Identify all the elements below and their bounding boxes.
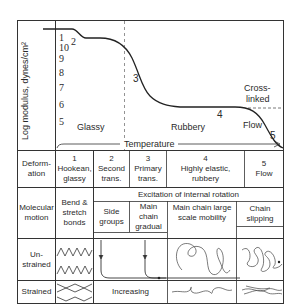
cell-text: Chain [250,204,271,214]
cell-text: glassy [63,174,86,184]
cell-number: 2 [109,154,113,164]
flow-label: Flow [243,120,262,130]
cell-number: 1 [72,154,76,164]
cell-text: Highly elastic, [181,164,230,174]
row-label-text: Deform- [22,159,51,169]
y-tick-5: 5 [59,117,64,127]
deformation-cell-5: 5 Flow [245,151,283,187]
region-4-label: 4 [217,110,223,120]
cell-text: trans. [101,174,121,184]
row-label-molecular-motion: Molecular motion [18,188,55,238]
increasing-label: Increasing [94,281,167,303]
y-tick-6: 6 [59,100,64,110]
cell-text: Primary [134,164,162,174]
y-tick-7: 7 [59,83,64,93]
region-2-label: 2 [71,37,76,47]
cell-text: Excitation of internal rotation [138,190,239,200]
cell-number: 3 [146,154,150,164]
row-label-unstrained: Un- strained [18,239,55,280]
cell-text: Main chain large [173,203,232,213]
row-label-text: motion [24,213,48,223]
glassy-label: Glassy [77,122,105,132]
cell-text: Bend & [61,198,87,208]
cell-text: Flow [256,169,273,179]
cell-text: trans. [138,174,158,184]
cell-text: gradual [135,222,162,232]
y-axis-label: Log modulus, dynes/cm² [20,42,30,140]
cell-text: Increasing [112,287,149,297]
y-tick-9: 9 [59,54,64,64]
cell-text: Main [140,202,157,212]
rubbery-label: Rubbery [171,122,205,132]
cell-text: bonds [64,218,86,228]
side-groups-cell: Side groups [94,202,129,232]
bend-stretch-cell: Bend & stretch bonds [56,188,93,238]
cell-number: 5 [262,159,266,169]
crosslinked-label-1: Cross- [244,83,271,93]
x-axis-label: Temperature [122,139,177,149]
region-3-label: 3 [133,74,139,84]
deformation-cell-3: 3 Primary trans. [130,151,166,187]
deformation-cell-4: 4 Highly elastic, rubbery [167,151,244,187]
cell-text: Side [103,207,119,217]
cell-text: groups [99,217,123,227]
y-tick-10: 10 [59,43,69,53]
cell-text: chain [139,212,158,222]
deformation-cell-2: 2 Second trans. [94,151,129,187]
cell-text: Hookean, [57,164,91,174]
row-label-text: Molecular [19,203,54,213]
excitation-header: Excitation of internal rotation [94,188,283,201]
row-label-text: ation [28,169,45,179]
y-tick-8: 8 [59,68,64,78]
cell-text: rubbery [192,174,219,184]
cell-number: 4 [203,154,207,164]
cell-text: Second [98,164,125,174]
main-chain-gradual-cell: Main chain gradual [130,202,167,232]
cell-text: stretch [62,208,86,218]
chain-slipping-cell: Chain slipping [237,202,283,226]
row-label-text: Strained [22,287,52,297]
region-5-label: 5 [270,131,276,141]
row-label-text: Un- [30,250,43,260]
deformation-cell-1: 1 Hookean, glassy [56,151,93,187]
main-chain-large-cell: Main chain large scale mobility [168,202,236,224]
cell-text: slipping [246,214,273,224]
cell-text: scale mobility [178,213,226,223]
crosslinked-label-2: linked [246,94,270,104]
row-label-deformation: Deform- ation [18,151,55,187]
row-label-text: strained [22,260,50,270]
row-label-strained: Strained [18,281,55,303]
